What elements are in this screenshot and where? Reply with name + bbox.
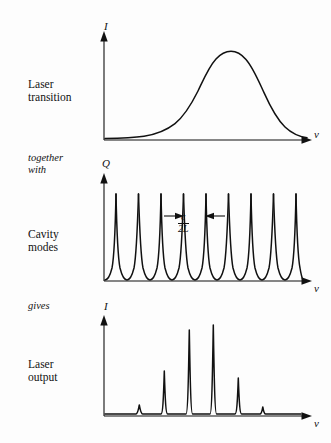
plot-cavity-modes <box>96 168 316 286</box>
panel-label-laser-output: Laser output <box>28 358 57 384</box>
laser-output-spectrum <box>105 325 301 414</box>
mode-spacing-arrows <box>164 213 225 219</box>
y-axis-middle <box>100 173 107 281</box>
plot-laser-transition <box>96 28 316 143</box>
plot-laser-output <box>96 310 316 422</box>
x-axis-middle <box>104 277 312 284</box>
connector-together-with: together with <box>28 152 63 176</box>
laser-mode-diagram: Laser transition I v together with Cavit… <box>0 0 331 443</box>
connector-gives: gives <box>28 300 50 312</box>
panel-label-laser-transition: Laser transition <box>28 78 71 104</box>
cavity-mode-comb <box>105 194 303 280</box>
gaussian-gain-curve <box>105 51 307 138</box>
panel-label-cavity-modes: Cavity modes <box>28 228 59 254</box>
y-axis-bottom <box>100 315 107 416</box>
y-axis-top <box>100 31 107 140</box>
